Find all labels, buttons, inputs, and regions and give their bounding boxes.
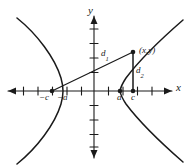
focus-left-dot (50, 89, 55, 94)
x-axis-left-arrow (8, 88, 16, 95)
d1-label: d1 (101, 49, 109, 60)
diagram-canvas (0, 0, 187, 165)
tick-label-neg-a: −a (57, 93, 68, 102)
x-axis-right-arrow (164, 88, 172, 95)
tick-label-a: a (117, 93, 122, 102)
hyperbola-figure: x y −c −a a c (x,y) d1 d2 (0, 0, 187, 165)
y-axis-bottom-arrow (91, 150, 98, 158)
y-axis-label: y (88, 5, 93, 16)
tick-label-neg-c: −c (39, 93, 49, 102)
point-on-curve-dot (131, 50, 136, 55)
point-label-xy: (x,y) (139, 46, 155, 55)
d2-label: d2 (136, 66, 144, 77)
x-axis-label: x (176, 82, 181, 93)
tick-label-c: c (131, 93, 135, 102)
y-axis-top-arrow (91, 16, 98, 24)
